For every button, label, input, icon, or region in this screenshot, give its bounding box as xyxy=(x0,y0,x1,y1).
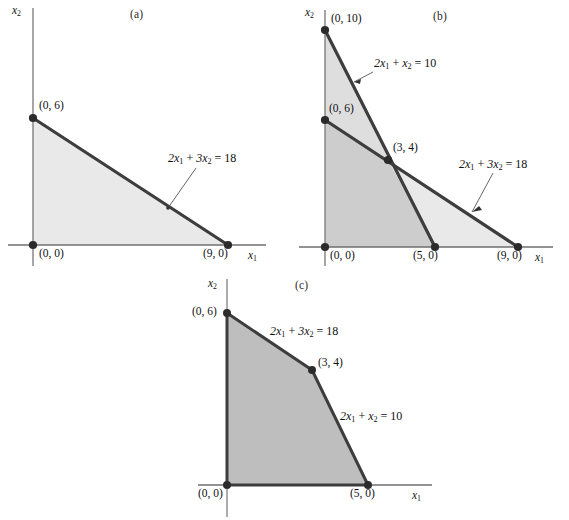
y-axis-label-b: x2 xyxy=(305,6,314,18)
vertex-dot-0-10-b xyxy=(321,26,329,34)
vertex-dot-3-4-c xyxy=(308,366,316,374)
panel-a-plot xyxy=(0,0,285,270)
panel-a: (a) x2 x1 (0, 6) (0, 0) (9, 0) 2x1 + 3x2… xyxy=(0,0,285,270)
vertex-dot-0-6-a xyxy=(29,114,37,122)
leader-line-a xyxy=(168,168,196,208)
point-label-9-0-a: (9, 0) xyxy=(203,248,228,260)
panel-c-title: (c) xyxy=(295,279,308,291)
vertex-dot-0-6-c xyxy=(223,309,231,317)
panel-b-title: (b) xyxy=(433,10,447,22)
feasible-region-c xyxy=(227,313,368,485)
point-label-0-6-a: (0, 6) xyxy=(39,100,64,112)
constraint-label-2x1-3x2-18-b: 2x1 + 3x2 = 18 xyxy=(459,158,527,170)
x-axis-label-b: x1 xyxy=(535,251,544,263)
point-label-5-0-b: (5, 0) xyxy=(413,250,438,262)
point-label-0-0-a: (0, 0) xyxy=(39,248,64,260)
x-axis-label-c: x1 xyxy=(412,489,421,501)
point-label-0-6-c: (0, 6) xyxy=(192,306,217,318)
vertex-dot-0-6-b xyxy=(321,116,329,124)
panel-b-plot xyxy=(285,0,569,270)
panel-c-plot xyxy=(140,265,440,520)
y-axis-label-a: x2 xyxy=(12,4,21,16)
vertex-dot-3-4-b xyxy=(384,156,392,164)
point-label-9-0-b: (9, 0) xyxy=(497,250,522,262)
panel-a-title: (a) xyxy=(130,8,143,20)
point-label-0-0-b: (0, 0) xyxy=(330,250,355,262)
constraint-label-2x1-x2-10-c: 2x1 + x2 = 10 xyxy=(340,410,402,422)
x-axis-label-a: x1 xyxy=(248,249,257,261)
leader-line-2x1-x2-10-b xyxy=(354,72,373,82)
point-label-5-0-c: (5, 0) xyxy=(350,488,375,500)
constraint-label-2x1-x2-10-b: 2x1 + x2 = 10 xyxy=(374,57,436,69)
point-label-3-4-b: (3, 4) xyxy=(393,142,418,154)
y-axis-label-c: x2 xyxy=(208,277,217,289)
leader-line-2x1-3x2-18-b xyxy=(472,173,493,212)
vertex-dot-0-0-a xyxy=(29,241,37,249)
point-label-0-0-c: (0, 0) xyxy=(198,488,223,500)
constraint-label-2x1-3x2-18-c: 2x1 + 3x2 = 18 xyxy=(270,325,338,337)
constraint-label-2x1-3x2-18-a: 2x1 + 3x2 = 18 xyxy=(168,152,236,164)
vertex-dot-0-0-c xyxy=(223,481,231,489)
vertex-dot-0-0-b xyxy=(321,243,329,251)
figure-root: (a) x2 x1 (0, 6) (0, 0) (9, 0) 2x1 + 3x2… xyxy=(0,0,569,520)
leader-dot-a xyxy=(166,206,170,210)
point-label-3-4-c: (3, 4) xyxy=(318,357,343,369)
panel-b: (b) x2 x1 (0, 10) (0, 6) (3, 4) (0, 0) (… xyxy=(285,0,569,270)
point-label-0-6-b: (0, 6) xyxy=(329,103,354,115)
panel-c: (c) x2 x1 (0, 6) (3, 4) (0, 0) (5, 0) 2x… xyxy=(140,265,440,520)
point-label-0-10-b: (0, 10) xyxy=(331,13,362,25)
